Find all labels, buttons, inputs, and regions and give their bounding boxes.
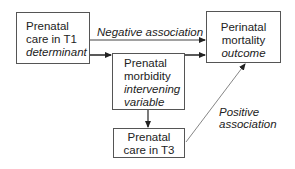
- node-role: intervening: [124, 83, 184, 96]
- node-prenatal-morbidity: Prenatal morbidity intervening variable: [112, 53, 185, 110]
- node-role: variable: [124, 96, 184, 109]
- node-label: Prenatal: [26, 20, 89, 33]
- node-label: Prenatal: [124, 57, 184, 70]
- positive-association-label-2: association: [219, 118, 277, 131]
- node-label: mortality: [207, 34, 280, 47]
- node-role: outcome: [207, 47, 280, 60]
- node-label: Perinatal: [207, 21, 280, 34]
- node-label: Prenatal: [114, 131, 184, 144]
- node-prenatal-care-t3: Prenatal care in T3: [113, 128, 185, 158]
- node-label: care in T1: [26, 33, 89, 46]
- negative-association-label: Negative association: [97, 26, 203, 39]
- node-label: morbidity: [124, 70, 184, 83]
- node-label: care in T3: [114, 144, 184, 157]
- node-perinatal-mortality: Perinatal mortality outcome: [206, 11, 281, 63]
- node-role: determinant: [26, 46, 89, 59]
- node-prenatal-care-t1: Prenatal care in T1 determinant: [16, 12, 90, 64]
